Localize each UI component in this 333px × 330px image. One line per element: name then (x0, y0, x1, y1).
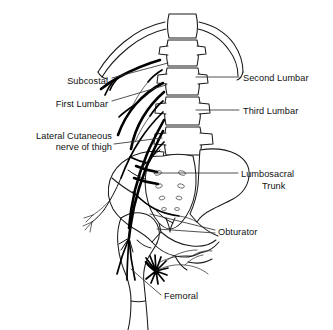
label-femoral: Femoral (164, 291, 198, 301)
lumbar-plexus-figure: Subcostal First Lumbar Lateral Cutaneous… (0, 0, 333, 330)
anatomy-illustration: Subcostal First Lumbar Lateral Cutaneous… (0, 0, 333, 330)
label-third-lumbar: Third Lumbar (243, 106, 298, 116)
label-lateral-cutaneous-line2: nerve of thigh (56, 142, 112, 152)
label-obturator: Obturator (218, 227, 257, 237)
label-first-lumbar: First Lumbar (56, 99, 108, 109)
label-lateral-cutaneous-line1: Lateral Cutaneous (36, 131, 112, 141)
label-lumbosacral-trunk-line1: Lumbosacral (241, 169, 294, 179)
label-subcostal: Subcostal (67, 76, 108, 86)
label-lumbosacral-trunk-line2: Trunk (262, 181, 286, 191)
lumbar-vertebra-1 (168, 14, 198, 38)
label-second-lumbar: Second Lumbar (243, 73, 309, 83)
